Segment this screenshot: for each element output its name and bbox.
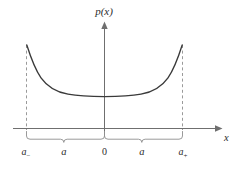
tick-label-left-turning-point-subscript: − [27,152,31,160]
plot-canvas [0,0,235,175]
figure-classical-probability-density: p(x) x a− 0 a+ a a [0,0,235,175]
tick-label-right-turning-point: a+ [179,147,188,160]
brace-right-half-width [105,132,183,143]
brace-label-right: a [139,147,144,158]
y-axis-arrowhead [101,22,107,30]
x-axis-arrowhead [215,125,223,132]
brace-left-half-width [27,132,105,143]
brace-label-left: a [61,147,66,158]
tick-label-origin: 0 [102,147,107,157]
y-axis-label: p(x) [95,6,113,17]
tick-label-right-turning-point-subscript: + [184,152,188,160]
x-axis-label: x [224,133,229,144]
tick-label-left-turning-point: a− [22,147,31,160]
